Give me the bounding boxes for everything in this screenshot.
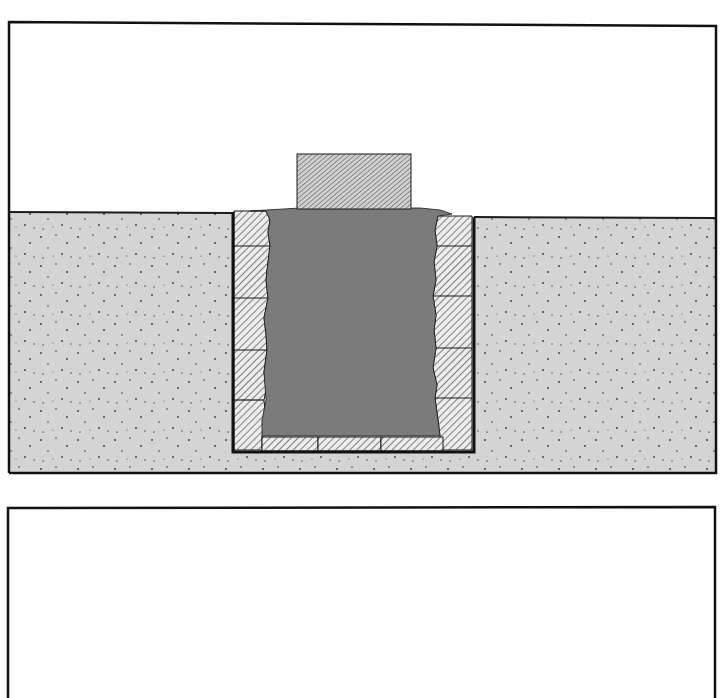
right-wall-stones [433, 216, 472, 450]
bottom-panel [8, 507, 715, 698]
pit-fill [250, 208, 452, 436]
ground-line-right [474, 217, 716, 218]
diagram-canvas [0, 0, 720, 698]
ground-line-left [9, 212, 232, 213]
base-block-1 [262, 437, 318, 451]
cross-section-svg [0, 0, 720, 698]
bottom-panel-frame [8, 507, 715, 698]
cap-stone [297, 154, 411, 209]
base-block-2 [318, 437, 381, 451]
top-panel [9, 22, 716, 473]
base-block-3 [381, 437, 443, 451]
